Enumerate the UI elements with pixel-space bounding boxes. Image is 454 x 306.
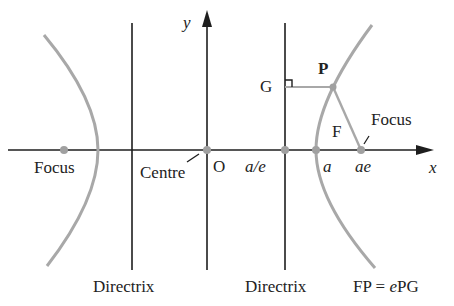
focus-left-point [60, 146, 68, 154]
y-axis-label: y [181, 13, 191, 32]
right-angle-mark [285, 80, 292, 87]
point-p [330, 84, 337, 91]
x-axis-arrow-icon [416, 145, 434, 155]
label-a-over-e: a/e [245, 157, 266, 176]
label-focus-left: Focus [34, 158, 75, 177]
label-p: P [318, 59, 328, 78]
relation-pg: PG [397, 277, 419, 296]
label-directrix-right: Directrix [245, 277, 307, 296]
origin-point [203, 146, 211, 154]
label-g: G [260, 77, 272, 96]
focus-right-pointer [364, 136, 369, 144]
label-a: a [323, 157, 332, 176]
hyperbola-diagram: y x O a/e a ae P G F Focus Focus Centre … [0, 0, 454, 306]
label-focus-right: Focus [371, 110, 412, 129]
centre-pointer [187, 154, 199, 162]
y-axis-arrow-icon [202, 10, 212, 27]
label-directrix-left: Directrix [93, 277, 155, 296]
label-origin: O [213, 157, 225, 176]
focus-directrix-relation: FP = ePG [353, 277, 419, 296]
label-f: F [332, 122, 341, 141]
a-over-e-point [281, 146, 289, 154]
label-ae: ae [355, 157, 372, 176]
focus-right-point [357, 146, 365, 154]
x-axis-label: x [428, 158, 437, 177]
label-centre: Centre [140, 163, 185, 182]
relation-fp: FP = [353, 277, 389, 296]
vertex-a-point [312, 146, 320, 154]
